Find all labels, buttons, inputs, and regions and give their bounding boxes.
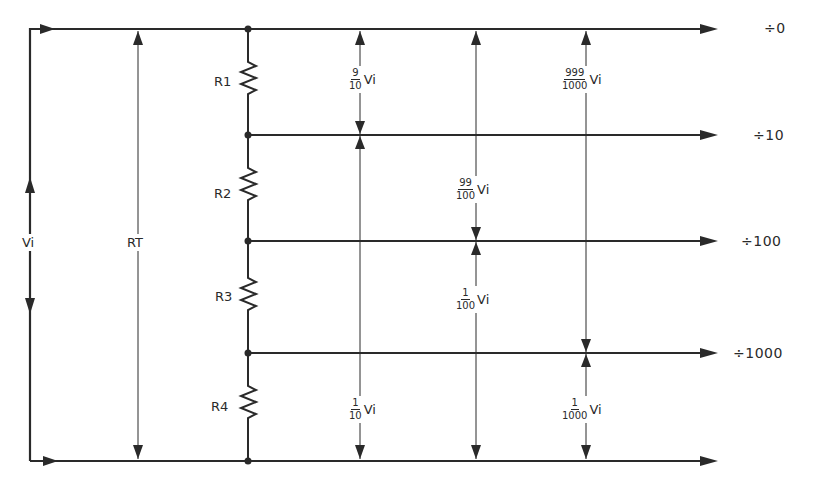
output-label-div100: ÷100 xyxy=(741,234,781,248)
total-resistance-label: RT xyxy=(126,234,144,251)
dimension-label-9-10-vi: 910 Vi xyxy=(348,66,377,93)
output-label-div1000: ÷1000 xyxy=(733,346,783,360)
dimension-label-1-1000-vi: 11000 Vi xyxy=(561,396,603,423)
resistor-r2-icon xyxy=(241,135,256,241)
dimension-label-99-100-vi: 99100 Vi xyxy=(455,176,490,203)
node-dot xyxy=(245,350,252,357)
output-arrow-icon xyxy=(700,348,718,358)
dimension-label-1-10-vi: 110 Vi xyxy=(348,396,377,423)
node-dot xyxy=(245,238,252,245)
resistor-label-r3: R3 xyxy=(215,290,232,303)
voltage-divider-schematic xyxy=(0,0,815,489)
vi-arrow-up-icon xyxy=(25,177,35,193)
node-dot xyxy=(245,26,252,33)
output-label-div10: ÷10 xyxy=(753,128,784,142)
flow-arrow-bottom-icon xyxy=(43,456,58,466)
output-arrow-icon xyxy=(700,130,718,140)
output-label-div0: ÷0 xyxy=(764,21,786,35)
resistor-r4-icon xyxy=(241,353,256,461)
dimension-label-999-1000-vi: 9991000 Vi xyxy=(561,66,603,93)
resistor-label-r4: R4 xyxy=(211,400,228,413)
output-arrow-icon xyxy=(700,456,718,466)
node-dot xyxy=(245,458,252,465)
resistor-r1-icon xyxy=(241,29,256,135)
resistor-label-r1: R1 xyxy=(214,75,231,88)
node-dot xyxy=(245,132,252,139)
flow-arrow-top-icon xyxy=(40,24,55,34)
output-arrow-icon xyxy=(700,236,718,246)
dimension-label-1-100-vi: 1100 Vi xyxy=(455,286,490,313)
resistor-r3-icon xyxy=(241,241,256,353)
input-voltage-label: Vi xyxy=(21,234,35,251)
vi-arrow-down-icon xyxy=(25,298,35,314)
output-arrow-icon xyxy=(700,24,718,34)
resistor-label-r2: R2 xyxy=(214,187,231,200)
total-resistance-text: RT xyxy=(127,235,143,250)
